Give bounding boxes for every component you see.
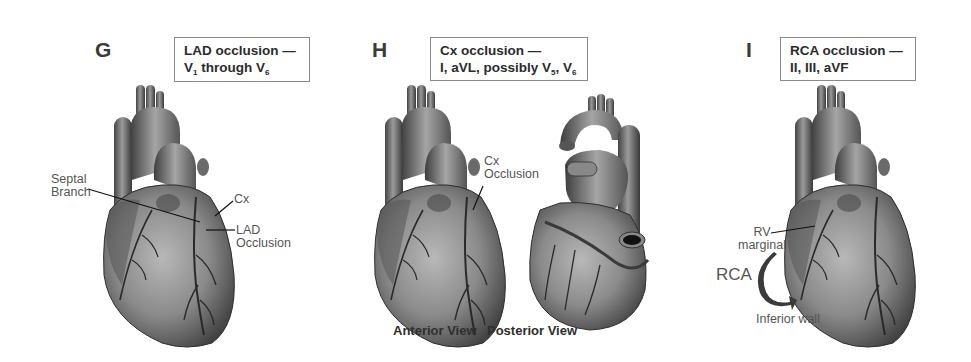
label-septal-branch: SeptalBranch — [51, 173, 91, 199]
caption-line2: II, III, aVF — [790, 59, 906, 76]
caption-box-lad: LAD occlusion — V1 through V6 — [174, 37, 310, 82]
caption-line2: V1 through V6 — [184, 59, 300, 81]
panel-letter-h: H — [372, 38, 387, 62]
label-posterior-view: Posterior View — [487, 323, 577, 338]
label-rca: RCA — [716, 266, 752, 284]
panel-letter-i: I — [746, 38, 752, 62]
label-cx: Cx — [234, 193, 249, 206]
heart-anterior-g — [104, 85, 235, 347]
caption-line1: Cx occlusion — — [440, 42, 578, 59]
caption-box-cx: Cx occlusion — I, aVL, possibly V5, V6 — [430, 37, 588, 81]
label-lad-occlusion: LADOcclusion — [236, 224, 291, 250]
label-rv-marginal: RVmarginal — [738, 226, 786, 252]
caption-line1: LAD occlusion — — [184, 42, 300, 59]
label-cx-occlusion: CxOcclusion — [484, 155, 539, 181]
caption-line1: RCA occlusion — — [790, 42, 906, 59]
caption-line2: I, aVL, possibly V5, V6 — [440, 59, 578, 81]
caption-box-rca: RCA occlusion — II, III, aVF — [780, 37, 916, 81]
heart-anterior-h — [375, 85, 506, 347]
label-inferior-wall: Inferior wall — [756, 313, 820, 326]
panel-letter-g: G — [95, 38, 111, 62]
label-anterior-view: Anterior View — [393, 323, 477, 338]
heart-anterior-i — [785, 85, 916, 347]
heart-posterior-h — [530, 94, 648, 330]
